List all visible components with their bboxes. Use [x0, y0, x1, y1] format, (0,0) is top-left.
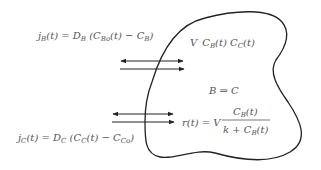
- rate-lhs: r(t) = V: [182, 117, 222, 128]
- volume-state-label: VCB(t) CC(t): [190, 37, 255, 50]
- cell-reaction-diagram: jB(t) = DB (CBo(t) − CB) VCB(t) CC(t) B …: [0, 0, 321, 170]
- flux-b-equation: jB(t) = DB (CBo(t) − CB): [36, 30, 153, 43]
- rate-numerator: CB(t): [233, 106, 258, 119]
- flux-c-equation: jC(t) = DC (CC(t) − CCo): [16, 132, 134, 145]
- rate-denominator: k + CB(t): [223, 124, 269, 137]
- reaction-label: B ⇒ C: [208, 85, 239, 96]
